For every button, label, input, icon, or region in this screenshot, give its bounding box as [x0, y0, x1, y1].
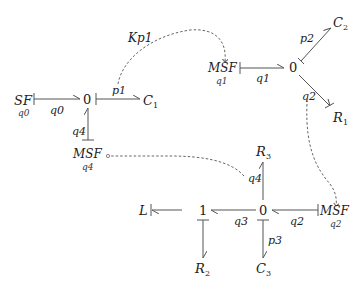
node-sf: SF q0 [14, 93, 33, 118]
node-l: L [138, 203, 148, 218]
svg-text:1: 1 [343, 118, 348, 127]
svg-text:MSF: MSF [207, 61, 238, 75]
svg-text:R: R [255, 144, 266, 159]
label-q2-top: q2 [302, 90, 316, 103]
junction-0a: 0 [83, 92, 91, 107]
sf-label: SF [14, 93, 33, 108]
signal-q4 [108, 156, 244, 176]
sf-sub: q0 [18, 108, 30, 118]
svg-text:C: C [256, 261, 266, 276]
label-q2-bottom: q2 [290, 215, 304, 228]
junction-0b: 0 [289, 60, 297, 75]
bond-graph-diagram: SF q0 q0 0 p1 C 1 q4 MSF q4 Kp1 MSF q1 q… [0, 0, 364, 296]
node-c1: C 1 [143, 93, 158, 110]
label-kp1: Kp1 [127, 31, 152, 45]
svg-text:3: 3 [266, 152, 271, 161]
node-c2: C 2 [333, 15, 348, 32]
label-q1: q1 [256, 72, 270, 85]
label-q3: q3 [234, 215, 248, 228]
bond-1-r2 [197, 220, 209, 258]
signal-q2 [307, 104, 337, 206]
svg-text:R: R [194, 261, 205, 276]
svg-text:L: L [138, 203, 148, 218]
node-r3: R 3 [255, 144, 271, 161]
svg-text:2: 2 [343, 23, 348, 32]
node-msf-q2: MSF q2 [319, 204, 350, 229]
svg-text:q4: q4 [82, 162, 94, 172]
label-p1: p1 [112, 84, 126, 97]
node-msf-q1: MSF q1 [207, 61, 238, 86]
svg-text:C: C [333, 15, 343, 30]
junction-1: 1 [199, 203, 207, 218]
label-q0: q0 [50, 104, 64, 117]
svg-text:3: 3 [266, 269, 271, 278]
label-q4-left: q4 [72, 125, 86, 138]
svg-text:MSF: MSF [319, 204, 350, 218]
svg-text:q2: q2 [330, 219, 342, 229]
junction-0c: 0 [259, 203, 267, 218]
svg-text:C: C [143, 93, 153, 108]
label-p2: p2 [300, 32, 314, 45]
node-r2: R 2 [194, 261, 210, 278]
node-r1: R 1 [332, 110, 348, 127]
label-q4-mid: q4 [248, 172, 262, 185]
label-p3: p3 [268, 234, 282, 247]
svg-text:q1: q1 [216, 76, 228, 86]
bond-1-l [151, 204, 182, 216]
svg-text:2: 2 [205, 269, 210, 278]
svg-text:R: R [332, 110, 343, 125]
svg-text:MSF: MSF [72, 147, 103, 161]
svg-text:1: 1 [153, 101, 158, 110]
node-msf-q4: MSF q4 [72, 147, 103, 172]
node-c3: C 3 [256, 261, 271, 278]
